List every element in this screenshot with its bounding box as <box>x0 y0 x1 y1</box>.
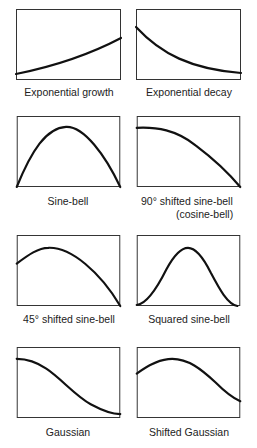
label-shifted-gaussian: Shifted Gaussian <box>119 426 257 438</box>
gaussian-plot <box>16 347 121 418</box>
label-cosine-bell: 90° shifted sine-bell <box>141 195 233 207</box>
cosine-bell-plot <box>136 116 241 187</box>
shifted-gaussian-plot <box>136 347 241 418</box>
label-squared-sine-bell: Squared sine-bell <box>119 313 257 325</box>
panel-squared-sine-bell <box>136 235 241 306</box>
sine-bell-plot <box>16 116 121 187</box>
label-sine-bell: Sine-bell <box>0 195 138 207</box>
45-shifted-sine-bell-plot <box>16 235 121 306</box>
panel-cosine-bell <box>136 116 241 187</box>
panel-exponential-decay <box>136 9 241 80</box>
exponential-decay-plot <box>136 9 241 80</box>
panel-exponential-growth <box>16 9 121 80</box>
label-gaussian: Gaussian <box>0 426 138 438</box>
panel-gaussian <box>16 347 121 418</box>
exponential-growth-plot <box>16 9 121 80</box>
panel-sine-bell <box>16 116 121 187</box>
panel-shifted-gaussian <box>136 347 241 418</box>
squared-sine-bell-plot <box>136 235 241 306</box>
label-exponential-decay: Exponential decay <box>119 86 257 98</box>
panel-45-shifted-sine-bell <box>16 235 121 306</box>
sublabel-cosine-bell: (cosine-bell) <box>176 208 233 220</box>
